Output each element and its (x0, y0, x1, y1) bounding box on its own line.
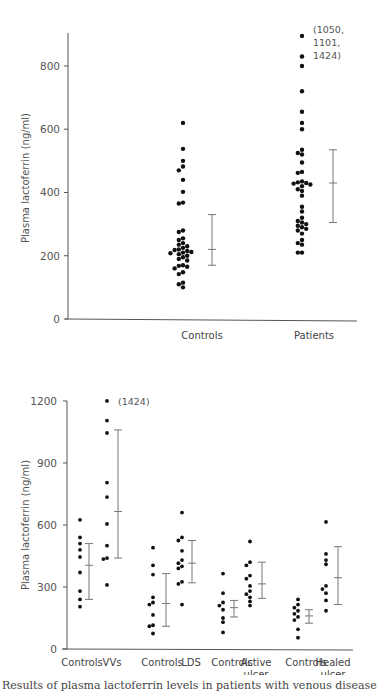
y-tick-label: 600 (37, 519, 57, 531)
data-point (300, 209, 304, 213)
data-point (181, 255, 185, 259)
outlier-annotation: (1050, (313, 24, 344, 35)
data-point (320, 587, 324, 591)
data-point (296, 223, 300, 227)
data-point (296, 603, 300, 607)
data-point (147, 624, 151, 628)
top-dot-plot: 0200400600800Plasma lactoferrin (ng/ml)C… (0, 0, 375, 345)
category-label: VVs (103, 657, 122, 668)
data-point (248, 600, 252, 604)
data-point (78, 589, 82, 593)
y-tick-label: 200 (40, 250, 60, 262)
data-point (181, 200, 185, 204)
data-point (324, 520, 328, 524)
data-point (296, 609, 300, 613)
data-point (300, 242, 304, 246)
data-point (221, 620, 225, 624)
data-point (324, 552, 328, 556)
data-point (300, 216, 304, 220)
data-point (105, 544, 109, 548)
data-point (105, 495, 109, 499)
data-point (300, 184, 304, 188)
data-point (78, 597, 82, 601)
data-point (168, 251, 172, 255)
data-point (248, 604, 252, 608)
data-point (185, 258, 189, 262)
category-label: Patients (294, 330, 334, 341)
data-point (300, 193, 304, 197)
data-point (296, 228, 300, 232)
data-point (217, 604, 221, 608)
data-point (300, 121, 304, 125)
bottom-plot-area: 03006009001200Plasma lactoferrin (ng/ml)… (0, 345, 375, 675)
data-point (189, 250, 193, 254)
data-point (181, 236, 185, 240)
data-point (180, 564, 184, 568)
category-label: LDS (181, 657, 201, 668)
data-point (181, 178, 185, 182)
data-point (105, 419, 109, 423)
data-point (304, 181, 308, 185)
data-point (181, 246, 185, 250)
data-point (180, 511, 184, 515)
data-point (177, 242, 181, 246)
data-point (300, 127, 304, 131)
data-point (296, 250, 300, 254)
data-point (176, 539, 180, 543)
data-point (151, 613, 155, 617)
outlier-annotation: 1424) (313, 50, 341, 61)
data-point (181, 263, 185, 267)
data-point (300, 225, 304, 229)
y-tick-label: 1200 (30, 395, 57, 407)
data-point (151, 623, 155, 627)
data-point (78, 548, 82, 552)
data-point (296, 171, 300, 175)
data-point (180, 580, 184, 584)
data-point (300, 110, 304, 114)
data-point (177, 272, 181, 276)
data-point (177, 282, 181, 286)
data-point (300, 152, 304, 156)
data-point (181, 228, 185, 232)
data-point (181, 270, 185, 274)
data-point (177, 247, 181, 251)
data-point (248, 560, 252, 564)
data-point (180, 549, 184, 553)
data-point (185, 249, 189, 253)
data-point (181, 250, 185, 254)
data-point (78, 518, 82, 522)
outlier-annotation: (1424) (118, 396, 150, 407)
data-point (78, 535, 82, 539)
data-point (291, 181, 295, 185)
data-point (300, 220, 304, 224)
data-point (248, 540, 252, 544)
data-point (300, 231, 304, 235)
data-point (181, 241, 185, 245)
data-point (180, 535, 184, 539)
category-label-line2: ulcer (244, 669, 270, 675)
data-point (300, 179, 304, 183)
data-point (180, 558, 184, 562)
x-axis (65, 319, 357, 321)
data-point (151, 563, 155, 567)
data-point (300, 148, 304, 152)
data-point (151, 546, 155, 550)
data-point (296, 615, 300, 619)
category-label: Controls (181, 330, 222, 341)
data-point (300, 89, 304, 93)
category-label: Active (241, 657, 272, 668)
data-point (296, 151, 300, 155)
data-point (292, 606, 296, 610)
data-point (151, 595, 155, 599)
data-point (304, 222, 308, 226)
y-tick-label: 800 (40, 60, 60, 72)
data-point (177, 252, 181, 256)
data-point (324, 591, 328, 595)
category-label: Controls (141, 657, 182, 668)
outlier-annotation: 1101, (313, 37, 340, 48)
data-point (300, 160, 304, 164)
data-point (181, 159, 185, 163)
data-point (181, 147, 185, 151)
data-point (78, 542, 82, 546)
data-point (181, 121, 185, 125)
